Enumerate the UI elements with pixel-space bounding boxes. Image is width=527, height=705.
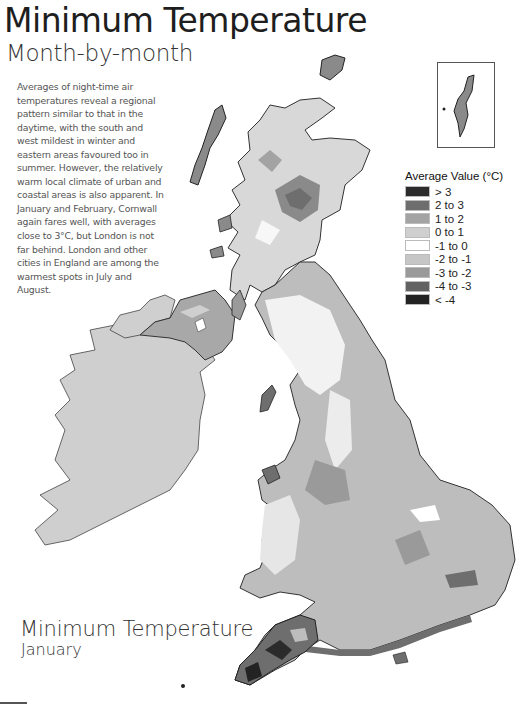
shetland-inset bbox=[437, 62, 495, 148]
legend-swatch bbox=[405, 240, 430, 251]
legend-swatch bbox=[405, 200, 430, 211]
legend-label: 2 to 3 bbox=[435, 199, 464, 211]
legend-swatch bbox=[405, 294, 430, 305]
legend-item: 2 to 3 bbox=[405, 199, 503, 213]
map-month: January bbox=[21, 641, 82, 659]
legend-swatch bbox=[405, 281, 430, 292]
legend-item: < -4 bbox=[405, 293, 503, 307]
legend-label: 1 to 2 bbox=[435, 213, 464, 225]
legend-item: 1 to 2 bbox=[405, 212, 503, 226]
legend-label: 0 to 1 bbox=[435, 226, 464, 238]
legend-item: -3 to -2 bbox=[405, 266, 503, 280]
page-rule bbox=[0, 702, 27, 704]
legend-item: -1 to 0 bbox=[405, 239, 503, 253]
legend-item: > 3 bbox=[405, 185, 503, 199]
legend-label: -1 to 0 bbox=[435, 240, 468, 252]
legend-swatch bbox=[405, 267, 430, 278]
legend-label: -3 to -2 bbox=[435, 267, 471, 279]
legend-label: < -4 bbox=[435, 294, 455, 306]
map-legend: Average Value (°C) > 3 2 to 3 1 to 2 0 t… bbox=[405, 170, 503, 307]
map-region-orkney bbox=[320, 55, 345, 80]
legend-swatch bbox=[405, 254, 430, 265]
legend-swatch bbox=[405, 213, 430, 224]
legend-item: -4 to -3 bbox=[405, 280, 503, 294]
legend-swatch bbox=[405, 227, 430, 238]
map-region-hebrides bbox=[190, 105, 226, 185]
legend-item: -2 to -1 bbox=[405, 253, 503, 267]
legend-swatch bbox=[405, 186, 430, 197]
map-region-isle-of-man bbox=[260, 385, 276, 412]
legend-label: -2 to -1 bbox=[435, 253, 471, 265]
legend-item: 0 to 1 bbox=[405, 226, 503, 240]
legend-title: Average Value (°C) bbox=[405, 170, 503, 182]
map-title: Minimum Temperature bbox=[20, 618, 253, 640]
legend-label: -4 to -3 bbox=[435, 280, 471, 292]
legend-label: > 3 bbox=[435, 186, 451, 198]
